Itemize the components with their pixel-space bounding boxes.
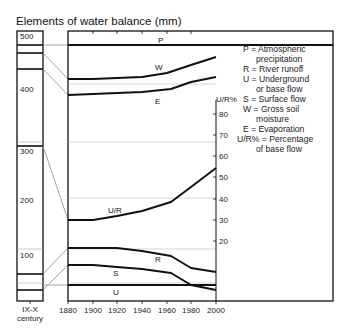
- legend-line: S = Surface flow: [243, 94, 313, 104]
- x-tick-1960: 1960: [158, 306, 176, 315]
- legend-line: W = Gross soil: [243, 104, 313, 114]
- right-axis-title: U/R%: [216, 95, 237, 104]
- left-tick-500: 500: [20, 32, 34, 41]
- legend-line: U/R% = Percentage: [237, 134, 313, 144]
- x-tick-1920: 1920: [108, 306, 126, 315]
- x-tick-1880: 1880: [59, 306, 77, 315]
- legend-line: of base flow: [243, 144, 313, 154]
- legend-line: moisture: [243, 114, 313, 124]
- legend-line: or base flow: [243, 84, 313, 94]
- series-ur-line: [68, 168, 216, 220]
- x-tick-1980: 1980: [182, 306, 200, 315]
- right-tick-80: 80: [219, 110, 228, 119]
- legend-line: E = Evaporation: [243, 124, 313, 134]
- x-tick-2000: 2000: [207, 306, 225, 315]
- right-tick-60: 60: [219, 152, 228, 161]
- series-label-p: P: [158, 36, 163, 45]
- legend-line: U = Underground: [243, 74, 313, 84]
- series-label-w: W: [155, 63, 163, 72]
- left-panel-label-2: century: [17, 314, 43, 323]
- x-tick-1900: 1900: [84, 306, 102, 315]
- right-tick-40: 40: [219, 195, 228, 204]
- left-tick-300: 300: [20, 147, 34, 156]
- left-tick-100: 100: [20, 251, 34, 260]
- panel-connectors: [43, 45, 68, 290]
- series-label-ur: U/R: [108, 206, 122, 215]
- right-tick-20: 20: [219, 237, 228, 246]
- right-tick-50: 50: [219, 173, 228, 182]
- series-label-u: U: [113, 288, 119, 297]
- left-panel-label-1: IX-X: [22, 305, 38, 314]
- series-label-e: E: [155, 97, 160, 106]
- right-tick-30: 30: [219, 216, 228, 225]
- series-label-s: S: [113, 269, 118, 278]
- series-w-line: [68, 57, 216, 79]
- series-label-r: R: [155, 255, 161, 264]
- left-tick-400: 400: [20, 85, 34, 94]
- legend-line: precipitation: [243, 54, 313, 64]
- legend: P = Atmospheric precipitation R = River …: [243, 44, 313, 154]
- left-panel: 500 400 300 200 100 IX-X century: [17, 31, 43, 323]
- left-tick-200: 200: [20, 196, 34, 205]
- x-tick-1940: 1940: [133, 306, 151, 315]
- legend-line: R = River runoff: [243, 64, 313, 74]
- legend-line: P = Atmospheric: [243, 44, 313, 54]
- right-tick-70: 70: [219, 131, 228, 140]
